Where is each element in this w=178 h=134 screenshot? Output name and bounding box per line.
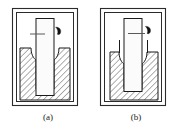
panel-b-rod bbox=[124, 19, 142, 92]
panel-b-caption: (b) bbox=[116, 112, 156, 122]
panel-a-rod bbox=[36, 19, 54, 96]
panel-a-caption: (a) bbox=[28, 112, 68, 122]
figure-container: (a) (b) bbox=[0, 0, 178, 134]
